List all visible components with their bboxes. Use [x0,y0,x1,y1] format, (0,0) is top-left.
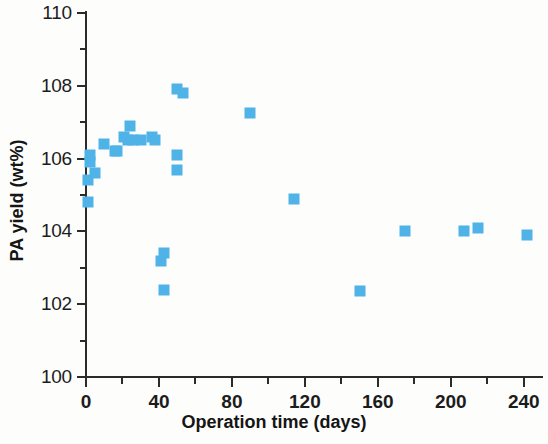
y-tick-label: 108 [41,75,72,97]
data-point-marker [522,230,533,241]
data-point-marker [82,197,93,208]
data-point-marker [150,135,161,146]
data-point-marker [90,168,101,179]
y-tick-mark [77,303,86,305]
x-minor-tick-mark [267,378,269,384]
data-point-marker [400,226,411,237]
data-point-marker [177,88,188,99]
x-axis-ticks: 04080120160200240 [0,378,548,398]
data-point-marker [245,108,256,119]
x-tick-mark [377,378,379,387]
data-point-marker [172,164,183,175]
data-point-marker [159,284,170,295]
x-minor-tick-mark [413,378,415,384]
data-point-marker [354,286,365,297]
x-tick-label: 200 [435,391,467,413]
data-point-marker [458,226,469,237]
data-point-marker [288,193,299,204]
y-tick-label: 110 [42,2,72,24]
x-tick-label: 40 [148,391,169,413]
x-minor-tick-mark [486,378,488,384]
data-point-marker [124,120,135,131]
x-tick-label: 0 [81,391,92,413]
data-point-marker [172,149,183,160]
y-axis-title: PA yield (wt%) [7,91,28,311]
data-point-marker [112,146,123,157]
data-point-marker [159,248,170,259]
y-tick-label: 106 [41,148,72,170]
x-minor-tick-mark [121,378,123,384]
y-tick-mark [77,12,86,14]
y-tick-label: 104 [41,220,72,242]
x-minor-tick-mark [194,378,196,384]
data-point-marker [473,222,484,233]
y-tick-mark [77,230,86,232]
x-tick-mark [231,378,233,387]
scatter-chart-figure: 100102104106108110 04080120160200240 Ope… [0,0,548,444]
x-tick-label: 80 [221,391,242,413]
x-tick-mark [450,378,452,387]
y-tick-mark [77,85,86,87]
data-point-marker [135,135,146,146]
x-tick-mark [85,378,87,387]
x-tick-label: 240 [508,391,540,413]
x-tick-mark [523,378,525,387]
data-point-marker [99,139,110,150]
x-tick-mark [304,378,306,387]
x-axis-title: Operation time (days) [0,412,548,433]
x-tick-label: 120 [289,391,321,413]
x-minor-tick-mark [340,378,342,384]
plot-area [86,13,542,377]
x-tick-label: 160 [362,391,394,413]
y-tick-label: 102 [41,293,72,315]
x-tick-mark [158,378,160,387]
data-point-marker [84,149,95,160]
